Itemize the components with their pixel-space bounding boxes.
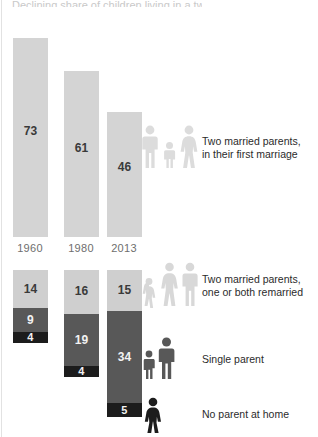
segment-2013-single-parent: 34	[107, 311, 142, 403]
page-edge-rule	[1, 0, 2, 437]
segment-2013-no-parent: 5	[107, 403, 142, 417]
bar-value-2013-no-parent: 5	[107, 404, 142, 416]
bar-value-1960-no-parent: 4	[13, 331, 48, 343]
legend-item-remarried: Two married parents, one or both remarri…	[140, 262, 316, 310]
axis-label-1960: 1960	[12, 242, 48, 254]
bar-value-2013-first-marriage: 46	[107, 160, 142, 174]
bar-2013-first-marriage: 46	[107, 112, 142, 237]
segment-1960-no-parent: 4	[13, 332, 48, 343]
bar-value-1960-remarried: 14	[13, 282, 48, 296]
bar-value-1980-first-marriage: 61	[64, 141, 99, 155]
stack-2013: 15 34 5	[107, 270, 142, 417]
segment-1980-single-parent: 19	[64, 314, 99, 366]
bar-value-1960-first-marriage: 73	[13, 124, 48, 138]
bar-1960-first-marriage: 73	[13, 38, 48, 237]
segment-1980-remarried: 16	[64, 270, 99, 314]
bar-1980-first-marriage: 61	[64, 71, 99, 237]
legend-label-no-parent: No parent at home	[202, 408, 314, 421]
family-two-parents-one-child-icon	[140, 124, 200, 170]
chart-title-clipped: Declining share of children living in a …	[12, 0, 202, 7]
legend-label-remarried: Two married parents, one or both remarri…	[202, 273, 314, 299]
stack-1960: 14 9 4	[13, 270, 48, 343]
family-child-two-parents-icon	[140, 262, 200, 308]
infographic-stacked-bar-chart: Declining share of children living in a …	[0, 0, 318, 437]
bar-value-2013-single-parent: 34	[107, 350, 142, 364]
segment-1980-no-parent: 4	[64, 366, 99, 377]
bar-value-1980-remarried: 16	[64, 284, 99, 298]
axis-label-2013: 2013	[106, 242, 142, 254]
legend-label-single-parent: Single parent	[202, 353, 314, 366]
legend-label-first-marriage: Two married parents, in their first marr…	[202, 135, 314, 161]
legend-item-single-parent: Single parent	[140, 336, 316, 382]
bar-value-1960-single-parent: 9	[13, 313, 48, 327]
segment-1960-remarried: 14	[13, 270, 48, 308]
bar-value-1980-no-parent: 4	[64, 365, 99, 377]
single-parent-with-child-icon	[140, 336, 184, 380]
legend-item-no-parent: No parent at home	[140, 396, 316, 436]
bar-value-2013-remarried: 15	[107, 283, 142, 297]
axis-label-1980: 1980	[63, 242, 99, 254]
legend-item-first-marriage: Two married parents, in their first marr…	[140, 124, 316, 172]
lone-child-icon	[140, 396, 170, 434]
segment-2013-remarried: 15	[107, 270, 142, 311]
bar-value-1980-single-parent: 19	[64, 333, 99, 347]
segment-1960-single-parent: 9	[13, 308, 48, 332]
stack-1980: 16 19 4	[64, 270, 99, 377]
